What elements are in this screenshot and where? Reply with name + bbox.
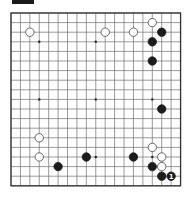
star-point — [151, 156, 153, 158]
white-stone — [148, 18, 156, 26]
star-point — [38, 41, 40, 43]
white-stone — [148, 143, 156, 151]
white-stone — [35, 134, 43, 142]
black-stone — [82, 153, 90, 161]
star-point — [95, 98, 97, 100]
black-stone — [158, 105, 166, 113]
white-stone — [26, 28, 34, 36]
black-stone — [148, 57, 156, 65]
go-board: 1 — [0, 0, 190, 200]
black-stone — [158, 28, 166, 36]
star-point — [95, 156, 97, 158]
star-point — [95, 41, 97, 43]
star-point — [151, 98, 153, 100]
white-stone — [129, 28, 137, 36]
black-stone — [54, 162, 62, 170]
black-stone — [148, 38, 156, 46]
black-stone — [158, 172, 166, 180]
black-stone — [148, 162, 156, 170]
white-stone — [101, 28, 109, 36]
white-stone — [35, 153, 43, 161]
move-number-label: 1 — [169, 173, 174, 181]
white-stone — [158, 162, 166, 170]
black-stone — [129, 153, 137, 161]
star-point — [38, 98, 40, 100]
white-stone — [158, 153, 166, 161]
